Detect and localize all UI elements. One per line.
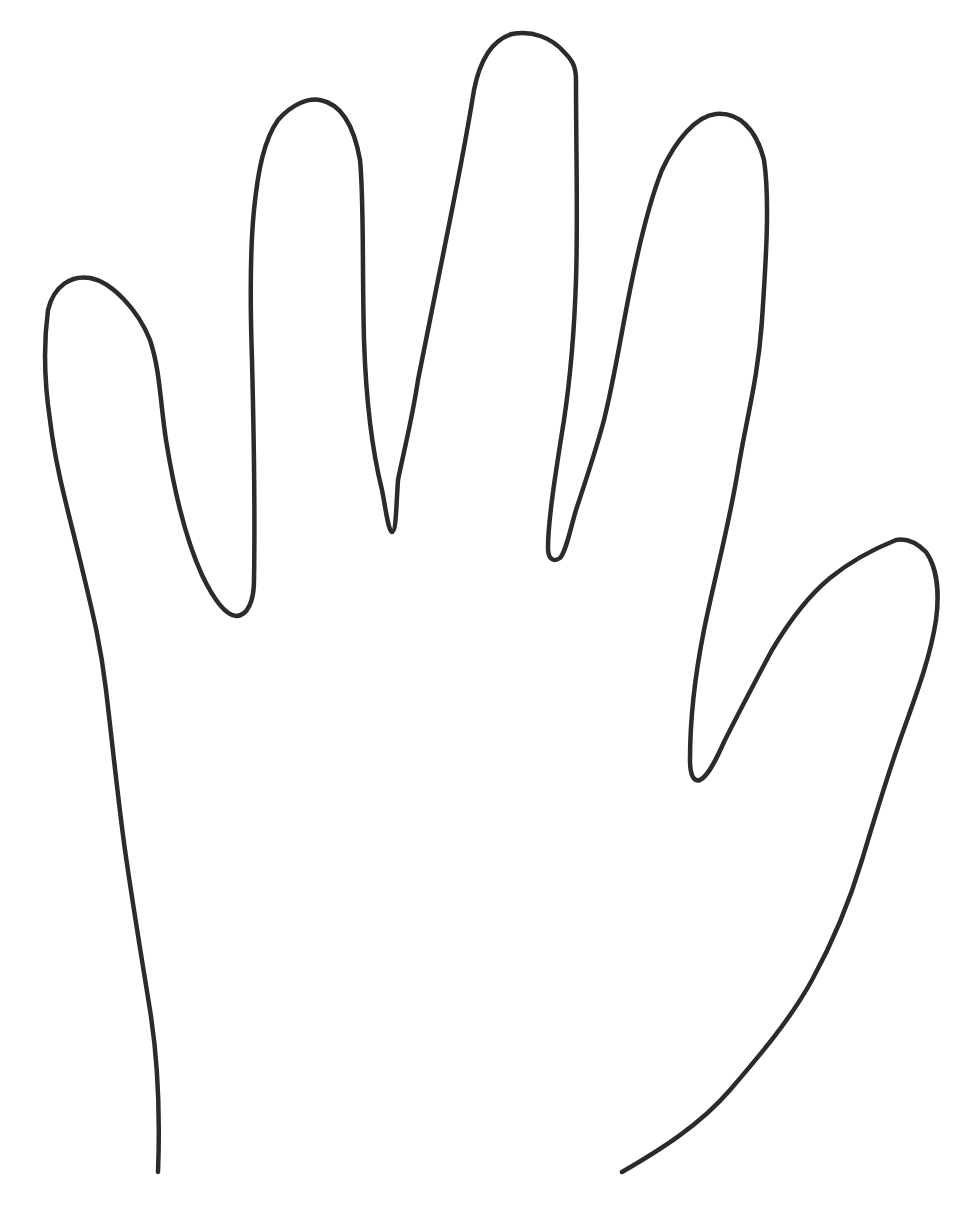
hand-outline-icon xyxy=(0,0,980,1209)
hand-outline-path xyxy=(45,33,937,1172)
drawing-canvas: Hand outline xyxy=(0,0,980,1209)
